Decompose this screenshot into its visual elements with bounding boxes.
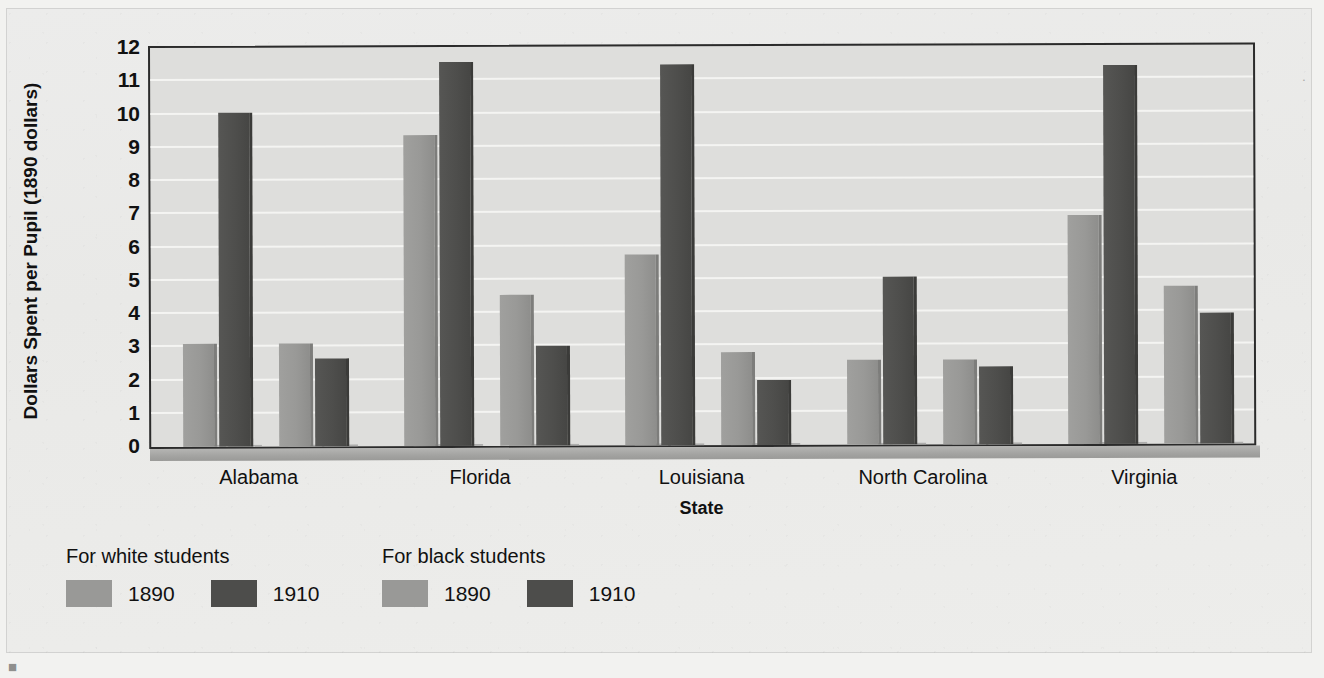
bar-body xyxy=(847,360,881,445)
plot-area xyxy=(148,43,1256,449)
bar[interactable] xyxy=(536,346,570,446)
legend-block: For black students18901910 xyxy=(382,545,671,607)
bar[interactable] xyxy=(943,360,977,445)
legend-entry[interactable]: 1910 xyxy=(211,580,356,607)
y-axis-tick-label: 4 xyxy=(96,302,140,323)
bar-body xyxy=(721,352,755,445)
bar-body xyxy=(979,366,1013,444)
bar-group xyxy=(150,47,373,447)
plot-base-plinth xyxy=(150,446,1260,461)
legend-entry[interactable]: 1890 xyxy=(382,580,527,607)
bar-body xyxy=(218,113,253,447)
bar[interactable] xyxy=(1068,215,1103,445)
y-axis-tick-label: 7 xyxy=(96,202,140,223)
x-axis-tick-label: North Carolina xyxy=(858,466,987,489)
bar[interactable] xyxy=(403,135,438,446)
x-axis-tick-label: Alabama xyxy=(219,466,298,489)
bar-body xyxy=(315,358,349,446)
y-axis-tick-label: 3 xyxy=(96,335,140,356)
y-axis-ticks: 1211109876543210 xyxy=(96,30,140,466)
bar-body xyxy=(536,346,570,446)
plot-outer xyxy=(148,43,1256,449)
bar[interactable] xyxy=(883,277,918,445)
y-axis-tick-label: 5 xyxy=(96,268,140,289)
legend-entry[interactable]: 1910 xyxy=(527,580,672,607)
bar-body xyxy=(1068,215,1103,445)
legend-swatch-dark xyxy=(527,580,573,607)
bar-body xyxy=(943,360,977,445)
x-axis-tick-label: Florida xyxy=(450,466,511,489)
bar[interactable] xyxy=(847,360,881,445)
bar[interactable] xyxy=(183,344,217,447)
bar[interactable] xyxy=(758,380,792,445)
bar-body xyxy=(500,295,534,446)
legend-year-label: 1910 xyxy=(273,582,320,606)
bar[interactable] xyxy=(721,352,755,445)
bar[interactable] xyxy=(979,366,1013,444)
bar-body xyxy=(1200,312,1234,443)
legend-swatch-light xyxy=(66,580,112,607)
bar[interactable] xyxy=(661,65,696,446)
y-axis-tick-label: 2 xyxy=(96,368,140,389)
bar[interactable] xyxy=(279,343,313,446)
bar-group xyxy=(593,46,816,446)
x-axis-ticks: AlabamaFloridaLouisianaNorth CarolinaVir… xyxy=(148,466,1255,496)
y-axis-tick-label: 8 xyxy=(96,169,140,190)
bar-body xyxy=(403,135,438,446)
bar-chart: Dollars Spent per Pupil (1890 dollars) 1… xyxy=(0,0,1324,678)
bar-body xyxy=(1164,286,1198,444)
x-axis-tick-label: Virginia xyxy=(1111,466,1177,489)
bar-group xyxy=(371,47,594,447)
bar[interactable] xyxy=(1164,286,1198,444)
legend-heading: For black students xyxy=(382,545,671,568)
y-axis-tick-label: 12 xyxy=(96,36,140,57)
bar-body xyxy=(1103,65,1138,444)
y-axis-tick-label: 9 xyxy=(96,135,140,156)
x-axis-tick-label: Louisiana xyxy=(659,466,745,489)
bar-body xyxy=(183,344,217,447)
legend-row: 18901910 xyxy=(382,580,671,607)
bar-body xyxy=(883,277,918,445)
y-axis-tick-label: 1 xyxy=(96,401,140,422)
bar[interactable] xyxy=(1103,65,1138,444)
y-axis-title: Dollars Spent per Pupil (1890 dollars) xyxy=(20,41,42,461)
y-axis-tick-label: 11 xyxy=(96,69,140,90)
legend-year-label: 1910 xyxy=(589,582,636,606)
x-axis-title: State xyxy=(148,498,1255,519)
legend-row: 18901910 xyxy=(66,580,355,607)
legend-year-label: 1890 xyxy=(128,582,175,606)
bar-group xyxy=(1036,45,1257,445)
bar-body xyxy=(758,380,792,445)
bar-body xyxy=(279,343,313,446)
y-axis-tick-label: 6 xyxy=(96,235,140,256)
chart-legend: For white students18901910For black stud… xyxy=(66,545,766,625)
bar-groups xyxy=(150,45,1253,48)
bar-body xyxy=(625,254,660,445)
legend-swatch-dark xyxy=(211,580,257,607)
bar[interactable] xyxy=(1200,312,1234,443)
bar[interactable] xyxy=(439,62,474,446)
y-axis-tick-label: 10 xyxy=(96,102,140,123)
legend-block: For white students18901910 xyxy=(66,545,355,607)
legend-year-label: 1890 xyxy=(444,582,491,606)
y-axis-tick-label: 0 xyxy=(96,435,140,456)
legend-heading: For white students xyxy=(66,545,355,568)
bar[interactable] xyxy=(218,113,253,447)
bar[interactable] xyxy=(625,254,660,445)
bar-body xyxy=(661,65,696,446)
bar[interactable] xyxy=(500,295,534,446)
bar[interactable] xyxy=(315,358,349,446)
legend-swatch-light xyxy=(382,580,428,607)
bar-body xyxy=(439,62,474,446)
bar-group xyxy=(814,45,1037,445)
legend-entry[interactable]: 1890 xyxy=(66,580,211,607)
